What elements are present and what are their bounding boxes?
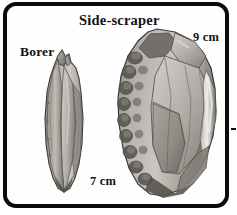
scale-label-borer: 7 cm [90, 174, 116, 189]
borer-artifact [31, 48, 103, 194]
flint-tools-figure: Side-scraper Borer 9 cm 7 cm [0, 0, 237, 215]
frame-notch-mark [231, 128, 236, 130]
page-title: Side-scraper [79, 12, 160, 29]
borer-label: Borer [20, 44, 55, 60]
side-scraper-artifact [105, 26, 225, 202]
figure-plate: Side-scraper Borer 9 cm 7 cm [7, 6, 225, 204]
scale-label-side-scraper: 9 cm [193, 30, 219, 45]
